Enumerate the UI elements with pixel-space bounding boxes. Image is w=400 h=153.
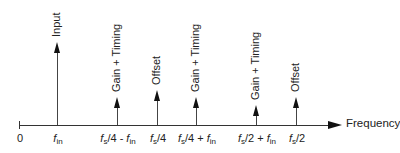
- tick-label-part: /2: [296, 132, 305, 144]
- arrow-up-icon: [253, 105, 259, 116]
- origin-tick: [19, 121, 20, 129]
- component-stem: [296, 105, 297, 125]
- tick-label: fs/2: [289, 132, 305, 146]
- tick-label-part: /4: [157, 132, 166, 144]
- tick-label: fs/2 + fin: [238, 132, 276, 146]
- tick-label-part: in: [129, 137, 135, 146]
- component-stem: [157, 98, 158, 125]
- component-label: Gain + Timing: [110, 24, 122, 92]
- component-label: Input: [50, 13, 62, 37]
- tick-label: fs/4: [150, 132, 166, 146]
- tick-label-part: /4 -: [107, 132, 126, 144]
- tick-label: fin: [53, 132, 62, 146]
- tick-label: fs/4 - fin: [100, 132, 135, 146]
- tick-label-part: in: [270, 137, 276, 146]
- component-stem: [117, 105, 118, 125]
- component-label: Gain + Timing: [189, 24, 201, 92]
- component-label: Offset: [289, 63, 301, 92]
- origin-label: 0: [17, 132, 23, 144]
- arrow-up-icon: [154, 90, 160, 101]
- tick-label-part: /4 +: [185, 132, 207, 144]
- arrow-up-icon: [54, 42, 60, 53]
- tick-label-part: in: [56, 137, 62, 146]
- axis-arrowhead-icon: [328, 121, 342, 129]
- component-stem: [196, 105, 197, 125]
- tick-label-part: /2 +: [245, 132, 267, 144]
- frequency-axis: [19, 125, 332, 126]
- arrow-up-icon: [293, 97, 299, 108]
- component-stem: [57, 50, 58, 125]
- component-label: Gain + Timing: [249, 32, 261, 100]
- arrow-up-icon: [193, 97, 199, 108]
- tick-label: fs/4 + fin: [178, 132, 216, 146]
- arrow-up-icon: [114, 97, 120, 108]
- component-label: Offset: [150, 56, 162, 85]
- axis-label: Frequency: [346, 117, 400, 129]
- tick-label-part: in: [210, 137, 216, 146]
